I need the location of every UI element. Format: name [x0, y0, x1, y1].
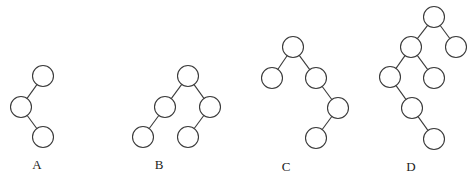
tree-d: [380, 7, 467, 150]
tree-edge: [278, 56, 287, 70]
tree-node: [178, 66, 199, 87]
tree-node: [401, 37, 422, 58]
tree-node: [283, 37, 304, 58]
tree-edge: [171, 84, 181, 98]
tree-node: [133, 127, 154, 148]
tree-label-b: B: [155, 158, 164, 171]
tree-node: [424, 129, 445, 150]
tree-label-a: A: [32, 158, 41, 171]
tree-node: [380, 67, 401, 88]
tree-edge: [417, 55, 427, 69]
tree-c: [262, 37, 349, 149]
nodes-layer: [11, 7, 467, 150]
tree-edge: [149, 115, 159, 128]
tree-label-d: D: [406, 160, 415, 173]
tree-edge: [194, 85, 204, 99]
tree-node: [200, 97, 221, 118]
tree-node: [11, 97, 32, 118]
tree-node: [155, 97, 176, 118]
tree-edge: [299, 55, 309, 69]
tree-edge: [27, 85, 37, 99]
tree-edge: [322, 86, 332, 99]
tree-edge: [194, 115, 204, 128]
tree-node: [306, 68, 327, 89]
tree-edge: [418, 117, 428, 131]
tree-b: [133, 66, 221, 148]
tree-edge: [396, 56, 405, 69]
tree-diagram-canvas: [0, 0, 476, 180]
tree-node: [33, 66, 54, 87]
tree-node: [424, 7, 445, 28]
tree-node: [328, 98, 349, 119]
tree-node: [33, 127, 54, 148]
tree-node: [306, 128, 327, 149]
tree-node: [262, 68, 283, 89]
tree-a: [11, 66, 54, 148]
tree-edge: [322, 116, 332, 129]
tree-edge: [396, 86, 406, 100]
tree-edge: [27, 115, 37, 128]
tree-node: [424, 68, 445, 89]
tree-node: [178, 127, 199, 148]
tree-node: [446, 37, 467, 58]
tree-edge: [417, 25, 427, 38]
tree-node: [402, 98, 423, 119]
tree-edge: [440, 25, 450, 38]
tree-label-c: C: [282, 160, 291, 173]
